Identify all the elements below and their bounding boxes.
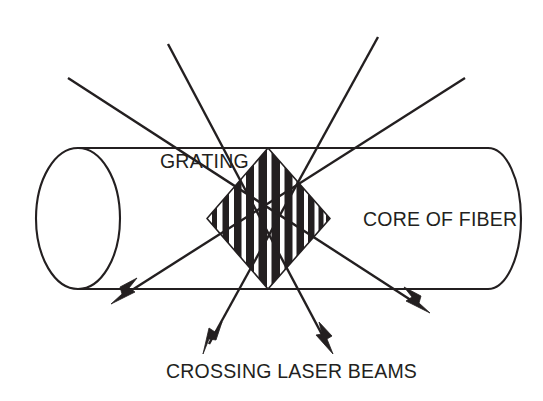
- grating-stripe: [297, 140, 305, 300]
- beam-arrowhead-bottom-left: [203, 322, 222, 354]
- label-crossing-laser-beams: CROSSING LASER BEAMS: [166, 360, 417, 382]
- label-grating: GRATING: [160, 150, 249, 172]
- beam-upper-right-to-lower-left: [121, 78, 465, 297]
- beam-arrowhead-lower-right: [404, 287, 430, 313]
- beam-upper-left-to-lower-right: [68, 78, 420, 306]
- fiber-left-end-ellipse: [36, 148, 120, 289]
- fiber-grating-diagram: GRATING CORE OF FIBER CROSSING LASER BEA…: [0, 0, 543, 401]
- beam-arrowhead-lower-left: [111, 278, 137, 304]
- grating-stripe: [259, 140, 268, 300]
- figure-root: GRATING CORE OF FIBER CROSSING LASER BEA…: [0, 0, 543, 401]
- label-core-of-fiber: CORE OF FIBER: [363, 208, 517, 230]
- grating-stripe: [319, 140, 324, 300]
